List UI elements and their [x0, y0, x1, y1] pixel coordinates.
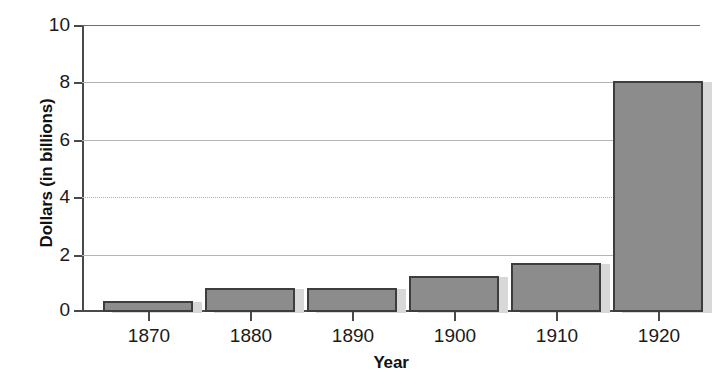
- x-tick-label-1890: 1890: [332, 325, 374, 347]
- x-tick-mark-1880: [250, 312, 252, 321]
- y-tick-mark-8: [74, 82, 82, 84]
- x-tick-mark-1890: [352, 312, 354, 321]
- x-tick-mark-1910: [556, 312, 558, 321]
- y-tick-label-6: 6: [59, 129, 70, 151]
- plot-area: 10 8 6 4 2 0: [82, 25, 700, 312]
- bar-1880[interactable]: [205, 284, 305, 312]
- bar-fill-1880: [205, 288, 295, 312]
- y-tick-mark-2: [74, 255, 82, 257]
- y-tick-label-10: 10: [49, 14, 70, 36]
- bar-chart: Dollars (in billions) 10 8 6 4 2: [0, 0, 715, 387]
- bars-layer: [82, 25, 700, 312]
- y-tick-label-4: 4: [59, 186, 70, 208]
- x-tick-label-1910: 1910: [536, 325, 578, 347]
- y-tick-label-0: 0: [59, 299, 70, 321]
- x-tick-mark-1900: [454, 312, 456, 321]
- bar-fill-1870: [103, 301, 193, 312]
- bar-1870[interactable]: [103, 297, 203, 312]
- y-axis-title: Dollars (in billions): [37, 43, 57, 303]
- y-tick-mark-6: [74, 140, 82, 142]
- y-tick-mark-0: [74, 310, 82, 312]
- y-tick-label-2: 2: [59, 244, 70, 266]
- bar-fill-1910: [511, 263, 601, 312]
- x-tick-label-1870: 1870: [128, 325, 170, 347]
- x-tick-label-1920: 1920: [638, 325, 680, 347]
- bar-1890[interactable]: [307, 284, 407, 312]
- x-tick-mark-1920: [658, 312, 660, 321]
- bar-fill-1900: [409, 276, 499, 312]
- y-tick-mark-4: [74, 197, 82, 199]
- bar-1910[interactable]: [511, 259, 611, 312]
- x-tick-mark-1870: [148, 312, 150, 321]
- bar-fill-1920: [613, 81, 703, 312]
- bar-1900[interactable]: [409, 272, 509, 312]
- bar-fill-1890: [307, 288, 397, 312]
- bar-1920[interactable]: [613, 77, 713, 312]
- x-axis-title: Year: [82, 353, 700, 373]
- x-tick-label-1900: 1900: [434, 325, 476, 347]
- y-tick-label-8: 8: [59, 71, 70, 93]
- x-tick-label-1880: 1880: [230, 325, 272, 347]
- y-tick-mark-10: [74, 25, 82, 27]
